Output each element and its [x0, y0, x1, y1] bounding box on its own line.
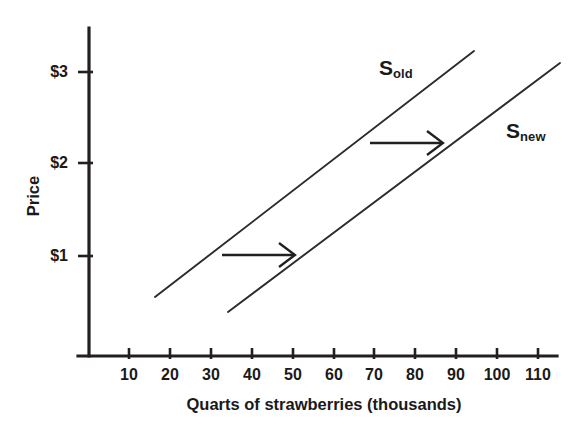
y-tick-label-1: $1 — [42, 248, 68, 264]
x-tick-label-80: 80 — [406, 367, 424, 383]
curve-label-s-old-base: S — [379, 56, 393, 79]
y-tick-label-3: $3 — [42, 64, 68, 80]
x-axis-title: Quarts of strawberries (thousands) — [186, 396, 461, 413]
x-tick-label-40: 40 — [243, 367, 261, 383]
supply-shift-chart: $3 $2 $1 Price 10 20 30 40 50 60 70 80 9… — [0, 0, 584, 434]
supply-curve-old — [155, 51, 474, 297]
curve-label-s-new: Snew — [506, 120, 546, 141]
supply-curve-new — [228, 63, 560, 312]
x-tick-label-30: 30 — [202, 367, 220, 383]
x-tick-label-90: 90 — [447, 367, 465, 383]
x-tick-label-20: 20 — [161, 367, 179, 383]
y-tick-label-2: $2 — [42, 155, 68, 171]
lower-shift-arrow — [222, 243, 295, 267]
x-tick-label-110: 110 — [525, 367, 551, 383]
x-tick-label-50: 50 — [284, 367, 302, 383]
y-axis-ticks — [78, 72, 93, 256]
curve-label-s-old: Sold — [379, 57, 413, 78]
curve-label-s-new-sub: new — [520, 129, 546, 144]
y-axis-title: Price — [25, 176, 42, 216]
x-tick-label-10: 10 — [120, 367, 138, 383]
x-tick-label-70: 70 — [365, 367, 383, 383]
x-tick-label-100: 100 — [484, 367, 511, 383]
curve-label-s-old-sub: old — [393, 66, 413, 81]
upper-shift-arrow — [370, 131, 443, 155]
curve-label-s-new-base: S — [506, 119, 520, 142]
x-tick-label-60: 60 — [325, 367, 343, 383]
